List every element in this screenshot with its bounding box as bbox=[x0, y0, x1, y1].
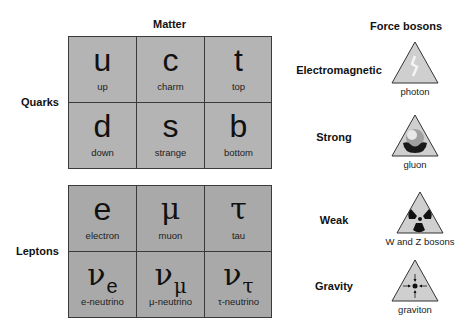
lepton-name: μ-neutrino bbox=[137, 296, 204, 307]
leptons-grid: eelectron μmuon τtau νee-neutrino νμμ-ne… bbox=[68, 185, 272, 318]
force-label-gravity: Gravity bbox=[279, 280, 389, 292]
nu-symbol: ν bbox=[87, 257, 105, 292]
quarks-grid: uup ccharm ttop ddown sstrange bbottom bbox=[68, 36, 272, 169]
radiation-icon bbox=[395, 190, 445, 235]
lepton-cell-tau-neutrino: νττ-neutrino bbox=[205, 252, 272, 318]
boson-graviton: graviton bbox=[385, 258, 445, 315]
quark-symbol: c bbox=[137, 43, 204, 77]
quark-cell-top: ttop bbox=[205, 37, 272, 103]
lepton-name: e-neutrino bbox=[69, 296, 136, 307]
quarks-label: Quarks bbox=[21, 96, 59, 108]
boson-name: W and Z bosons bbox=[385, 236, 455, 247]
lepton-name: tau bbox=[205, 230, 272, 241]
force-label-strong: Strong bbox=[279, 131, 389, 143]
lepton-symbol: νe bbox=[69, 258, 136, 295]
boson-name: graviton bbox=[385, 304, 445, 315]
boson-photon: photon bbox=[385, 40, 445, 97]
lepton-name: muon bbox=[137, 230, 204, 241]
lepton-name: τ-neutrino bbox=[205, 296, 272, 307]
quark-symbol: t bbox=[205, 43, 272, 77]
lepton-cell-tau: τtau bbox=[205, 186, 272, 252]
lepton-symbol: νμ bbox=[137, 258, 204, 295]
lepton-symbol: ντ bbox=[205, 258, 272, 295]
subscript: τ bbox=[243, 274, 254, 298]
converging-arrows-icon bbox=[390, 258, 440, 303]
quark-name: down bbox=[69, 147, 136, 158]
leptons-label: Leptons bbox=[16, 245, 59, 257]
quark-name: bottom bbox=[205, 147, 272, 158]
subscript: e bbox=[107, 275, 118, 297]
force-label-weak: Weak bbox=[279, 214, 389, 226]
quark-cell-up: uup bbox=[69, 37, 137, 103]
lightning-icon bbox=[390, 40, 440, 85]
lepton-cell-e-neutrino: νee-neutrino bbox=[69, 252, 137, 318]
quark-symbol: u bbox=[69, 43, 136, 77]
lepton-symbol: τ bbox=[205, 192, 272, 226]
lepton-cell-muon: μmuon bbox=[137, 186, 205, 252]
force-bosons-heading: Force bosons bbox=[370, 20, 442, 32]
boson-w-z: W and Z bosons bbox=[385, 190, 455, 247]
quark-name: top bbox=[205, 81, 272, 92]
lepton-cell-electron: eelectron bbox=[69, 186, 137, 252]
force-label-electromagnetic: Electromagnetic bbox=[284, 64, 394, 76]
quark-name: charm bbox=[137, 81, 204, 92]
subscript: μ bbox=[174, 274, 187, 298]
quark-symbol: d bbox=[69, 109, 136, 143]
quark-symbol: s bbox=[137, 109, 204, 143]
color-charge-icon bbox=[390, 113, 440, 158]
quark-cell-down: ddown bbox=[69, 103, 137, 169]
lepton-name: electron bbox=[69, 230, 136, 241]
nu-symbol: ν bbox=[223, 257, 241, 292]
quark-cell-bottom: bbottom bbox=[205, 103, 272, 169]
boson-name: photon bbox=[385, 86, 445, 97]
lepton-symbol: μ bbox=[137, 192, 204, 226]
lepton-symbol: e bbox=[69, 192, 136, 226]
quark-name: strange bbox=[137, 147, 204, 158]
quark-symbol: b bbox=[205, 109, 272, 143]
boson-gluon: gluon bbox=[385, 113, 445, 170]
quark-cell-strange: sstrange bbox=[137, 103, 205, 169]
matter-heading: Matter bbox=[153, 18, 186, 30]
nu-symbol: ν bbox=[154, 257, 172, 292]
lepton-cell-mu-neutrino: νμμ-neutrino bbox=[137, 252, 205, 318]
quark-name: up bbox=[69, 81, 136, 92]
quark-cell-charm: ccharm bbox=[137, 37, 205, 103]
boson-name: gluon bbox=[385, 159, 445, 170]
